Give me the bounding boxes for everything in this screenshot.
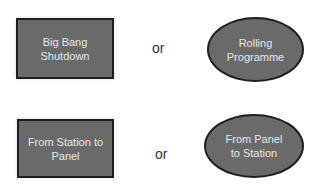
from-panel-to-station-ellipse: From Panel to Station — [204, 114, 304, 178]
ellipse-label-line: to Station — [226, 146, 283, 160]
box-label-line: From Station to — [28, 135, 103, 149]
ellipse-label-line: Rolling — [227, 36, 284, 50]
or-connector-1: or — [152, 40, 164, 56]
ellipse-label-line: From Panel — [226, 132, 283, 146]
rolling-programme-ellipse: Rolling Programme — [207, 17, 304, 82]
box-label-line: Big Bang — [41, 35, 90, 49]
box-label-line: Shutdown — [41, 49, 90, 63]
box-label-line: Panel — [28, 149, 103, 163]
ellipse-label-line: Programme — [227, 50, 284, 64]
big-bang-shutdown-box: Big Bang Shutdown — [16, 18, 114, 79]
from-station-to-panel-box: From Station to Panel — [17, 119, 114, 178]
or-connector-2: or — [155, 146, 167, 162]
